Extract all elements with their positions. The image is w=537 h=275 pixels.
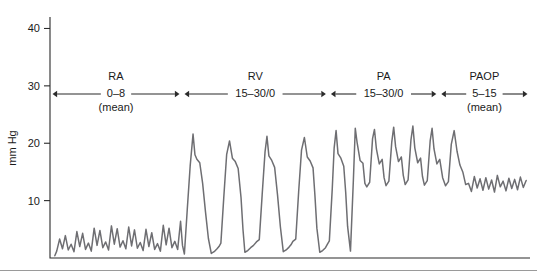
segment-label-pa: PA xyxy=(377,70,392,82)
chart-figure: 40302010 mm Hg RA0–8(mean)RV15–30/0PA15–… xyxy=(0,0,537,275)
y-tick-label-20: 20 xyxy=(28,137,40,149)
segment-label-ra: RA xyxy=(108,70,124,82)
segment-note-ra: (mean) xyxy=(99,101,134,113)
pressure-trace xyxy=(55,126,526,256)
y-axis-ticks xyxy=(44,28,50,200)
arrow-head-right xyxy=(175,91,180,97)
segment-paop: PAOP5–15(mean) xyxy=(441,70,527,113)
chart-axes xyxy=(50,17,530,258)
segment-ra: RA0–8(mean) xyxy=(53,70,180,113)
segment-note-paop: (mean) xyxy=(467,101,502,113)
segment-label-rv: RV xyxy=(248,70,264,82)
pressure-waveform-svg: 40302010 mm Hg RA0–8(mean)RV15–30/0PA15–… xyxy=(0,0,537,275)
y-tick-label-10: 10 xyxy=(28,195,40,207)
arrow-head-left xyxy=(441,91,446,97)
arrow-head-right xyxy=(321,91,326,97)
arrow-head-right xyxy=(523,91,528,97)
arrow-head-left xyxy=(53,91,58,97)
y-axis-title: mm Hg xyxy=(6,130,18,165)
segment-range-rv: 15–30/0 xyxy=(235,87,275,99)
segment-pa: PA15–30/0 xyxy=(331,70,436,99)
arrow-head-left xyxy=(185,91,190,97)
segment-range-pa: 15–30/0 xyxy=(364,87,404,99)
segment-annotation-band: RA0–8(mean)RV15–30/0PA15–30/0PAOP5–15(me… xyxy=(53,70,528,113)
y-tick-label-40: 40 xyxy=(28,22,40,34)
arrow-head-right xyxy=(432,91,437,97)
segment-label-paop: PAOP xyxy=(470,70,500,82)
y-tick-label-30: 30 xyxy=(28,80,40,92)
arrow-head-left xyxy=(331,91,336,97)
segment-range-ra: 0–8 xyxy=(107,87,125,99)
y-axis-tick-labels: 40302010 xyxy=(28,22,40,206)
segment-rv: RV15–30/0 xyxy=(185,70,326,99)
segment-range-paop: 5–15 xyxy=(472,87,496,99)
